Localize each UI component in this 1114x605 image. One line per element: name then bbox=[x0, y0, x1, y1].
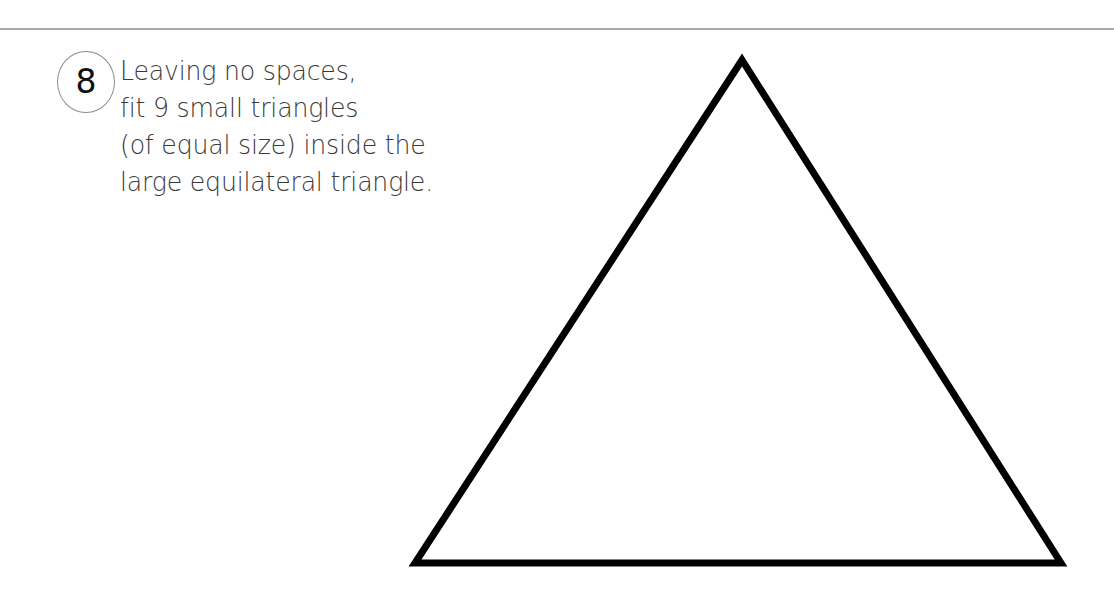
large-equilateral-triangle-figure bbox=[0, 0, 1114, 605]
equilateral-triangle-icon bbox=[415, 60, 1061, 563]
